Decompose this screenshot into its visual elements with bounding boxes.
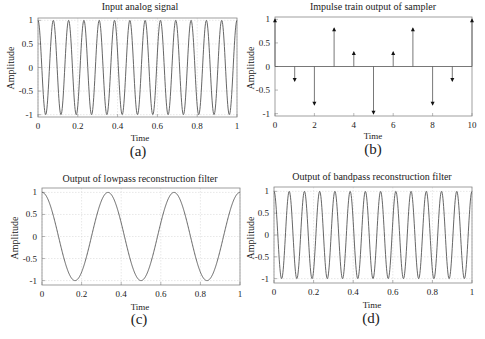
y-tick-label: 1	[29, 15, 34, 25]
y-tick-label: 0	[33, 232, 38, 242]
caption-c: (c)	[109, 311, 169, 328]
x-tick-label: 0.2	[72, 121, 83, 131]
y-tick-label: 0	[29, 63, 34, 73]
arrow-head-icon	[332, 27, 336, 31]
x-axis-label: Time	[363, 300, 382, 310]
x-tick-label: 0.2	[76, 289, 87, 299]
x-tick-label: 0	[40, 289, 45, 299]
y-tick-label: 0.5	[258, 208, 270, 218]
x-tick-label: 0.2	[308, 287, 319, 297]
plot-area: 0246810-1-0.500.51	[256, 14, 477, 130]
y-axis-label: Amplitude	[9, 216, 20, 259]
y-axis-label: Amplitude	[5, 46, 16, 89]
plot-area: 00.20.40.60.81-1-0.500.51	[255, 186, 475, 297]
y-tick-label: -0.5	[19, 86, 34, 96]
x-tick-label: 0	[273, 120, 278, 130]
y-tick-label: -0.5	[256, 85, 271, 95]
y-axis-label: Amplitude	[245, 46, 256, 89]
x-tick-label: 0.6	[152, 121, 164, 131]
panel-a: Input analog signal Time Amplitude 00.20…	[0, 0, 245, 170]
arrow-head-icon	[312, 102, 316, 106]
arrow-head-icon	[372, 111, 376, 115]
y-tick-label: -1	[30, 276, 38, 286]
chart-title: Output of bandpass reconstruction filter	[292, 171, 452, 182]
x-tick-label: 0.4	[348, 287, 360, 297]
x-tick-label: 0	[272, 287, 277, 297]
arrow-head-icon	[273, 18, 277, 22]
y-tick-label: 1	[266, 14, 271, 24]
arrow-head-icon	[411, 27, 415, 31]
x-tick-label: 1	[238, 289, 243, 299]
y-tick-label: 0.5	[26, 209, 38, 219]
caption-d: (d)	[341, 310, 401, 327]
x-tick-label: 4	[352, 120, 357, 130]
y-tick-label: 0.5	[259, 38, 271, 48]
panel-d: Output of bandpass reconstruction filter…	[245, 170, 485, 339]
arrow-head-icon	[391, 51, 395, 55]
plot-area: 00.20.40.60.81-1-0.500.51	[19, 15, 240, 131]
caption-b: (b)	[343, 141, 403, 158]
x-tick-label: 0.6	[155, 289, 167, 299]
x-axis-label: Time	[364, 131, 383, 141]
arrow-head-icon	[450, 78, 454, 82]
y-tick-label: 1	[33, 187, 38, 197]
chart-title: Output of lowpass reconstruction filter	[63, 173, 219, 184]
arrow-head-icon	[293, 78, 297, 82]
x-tick-label: 6	[391, 120, 396, 130]
x-tick-label: 1	[235, 121, 240, 131]
x-tick-label: 0.4	[116, 289, 128, 299]
chart-title: Input analog signal	[102, 1, 179, 12]
x-axis-label: Time	[131, 133, 150, 143]
x-tick-label: 0.8	[192, 121, 204, 131]
chart-title: Impulse train output of sampler	[310, 1, 437, 12]
x-tick-label: 0.6	[387, 287, 399, 297]
y-tick-label: -0.5	[23, 254, 38, 264]
x-tick-label: 0.4	[112, 121, 124, 131]
x-tick-label: 10	[468, 120, 478, 130]
plot-area: 00.20.40.60.81-1-0.500.51	[23, 187, 243, 299]
y-tick-label: -1	[263, 109, 271, 119]
arrow-head-icon	[352, 51, 356, 55]
y-tick-label: -1	[26, 110, 34, 120]
y-tick-label: -0.5	[255, 252, 270, 262]
x-tick-label: 2	[312, 120, 317, 130]
arrow-head-icon	[470, 18, 474, 22]
y-tick-label: 0.5	[22, 39, 34, 49]
y-tick-label: 0	[265, 230, 270, 240]
arrow-head-icon	[431, 102, 435, 106]
panel-c: Output of lowpass reconstruction filter …	[0, 170, 245, 339]
y-tick-label: -1	[262, 274, 270, 284]
y-tick-label: 1	[265, 186, 270, 196]
x-tick-label: 0.8	[427, 287, 439, 297]
x-tick-label: 1	[470, 287, 475, 297]
y-tick-label: 0	[266, 62, 271, 72]
x-tick-label: 0	[36, 121, 41, 131]
x-tick-label: 0.8	[195, 289, 207, 299]
caption-a: (a)	[108, 143, 168, 160]
panel-b: Impulse train output of sampler Time Amp…	[245, 0, 485, 170]
x-tick-label: 8	[430, 120, 435, 130]
